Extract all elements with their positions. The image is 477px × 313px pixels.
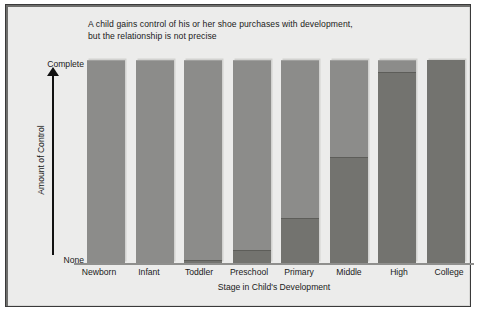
x-axis-baseline (74, 263, 474, 265)
bar-segment-child-control[interactable] (330, 157, 368, 263)
bar-stack[interactable] (233, 60, 271, 263)
chart-title: A child gains control of his or her shoe… (88, 19, 418, 42)
x-axis-tick-toddler: Toddler (174, 267, 224, 277)
x-axis-tick-high: High (374, 267, 424, 277)
bar-stack[interactable] (281, 60, 319, 263)
bar-group[interactable] (427, 60, 465, 263)
bar-stack[interactable] (184, 60, 222, 263)
bar-group[interactable] (184, 60, 222, 263)
bar-segment-parent-control[interactable] (233, 60, 271, 250)
bar-group[interactable] (281, 60, 319, 263)
chart-figure: A child gains control of his or her shoe… (0, 0, 477, 313)
bar-group[interactable] (136, 60, 174, 263)
bar-segment-child-control[interactable] (378, 72, 416, 263)
bar-group[interactable] (87, 60, 125, 263)
bar-segment-parent-control[interactable] (184, 60, 222, 260)
bar-segment-parent-control[interactable] (378, 60, 416, 72)
bar-group[interactable] (378, 60, 416, 263)
y-axis-title: Amount of Control (36, 80, 46, 240)
x-axis-tick-infant: Infant (124, 267, 174, 277)
x-axis-tick-college: College (424, 267, 474, 277)
bar-group[interactable] (233, 60, 271, 263)
bar-segment-child-control[interactable] (427, 60, 465, 263)
bar-stack[interactable] (87, 60, 125, 263)
x-axis-tick-labels: NewbornInfantToddlerPreschoolPrimaryMidd… (74, 267, 474, 281)
plot-area (82, 60, 470, 263)
x-axis-title: Stage in Child's Development (74, 282, 474, 292)
chart-title-line-2: but the relationship is not precise (88, 31, 418, 43)
bar-stack[interactable] (330, 60, 368, 263)
x-axis-tick-middle: Middle (324, 267, 374, 277)
bar-segment-parent-control[interactable] (136, 60, 174, 263)
bar-stack[interactable] (378, 60, 416, 263)
bar-segment-child-control[interactable] (281, 218, 319, 263)
bar-segment-parent-control[interactable] (87, 60, 125, 263)
x-axis-tick-preschool: Preschool (224, 267, 274, 277)
bar-segment-parent-control[interactable] (330, 60, 368, 157)
bar-group[interactable] (330, 60, 368, 263)
x-axis-tick-primary: Primary (274, 267, 324, 277)
y-axis-line (52, 73, 54, 255)
bar-segment-parent-control[interactable] (281, 60, 319, 218)
bar-segment-child-control[interactable] (233, 250, 271, 263)
chart-frame: A child gains control of his or her shoe… (5, 4, 471, 307)
bar-stack[interactable] (427, 60, 465, 263)
x-axis-tick-newborn: Newborn (74, 267, 124, 277)
bar-stack[interactable] (136, 60, 174, 263)
chart-title-line-1: A child gains control of his or her shoe… (88, 19, 418, 31)
